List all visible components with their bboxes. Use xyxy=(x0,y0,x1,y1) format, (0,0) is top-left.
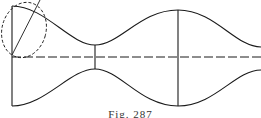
figure xyxy=(0,0,261,118)
upper-profile-curve xyxy=(12,6,261,47)
diagram-canvas xyxy=(0,0,261,118)
lower-profile-curve xyxy=(12,69,261,106)
figure-caption: Fig. 287 xyxy=(0,108,261,118)
generating-ellipse xyxy=(0,0,52,63)
